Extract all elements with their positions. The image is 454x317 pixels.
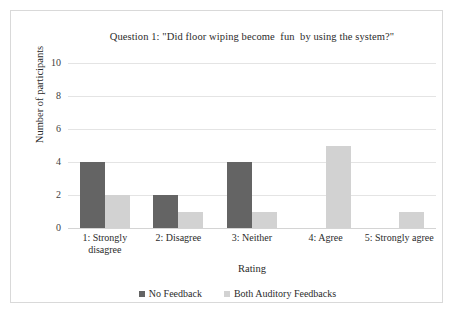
x-axis-tick-label-line: 4: Agree — [285, 232, 367, 244]
x-axis-line — [68, 228, 436, 229]
y-axis-tick-label: 6 — [25, 123, 61, 134]
chart-title: Question 1: "Did floor wiping become fun… — [57, 31, 447, 42]
legend-entry[interactable]: No Feedback — [139, 288, 202, 299]
legend-swatch-icon — [224, 291, 230, 297]
x-axis-tick-label-line: 5: Strongly agree — [358, 232, 440, 244]
legend-label: Both Auditory Feedbacks — [234, 288, 336, 299]
chart-figure: Question 1: "Did floor wiping become fun… — [0, 0, 454, 317]
legend-label: No Feedback — [149, 288, 202, 299]
x-axis-tick-label-line: 1: Strongly — [64, 232, 146, 244]
y-axis-tick-label: 2 — [25, 189, 61, 200]
x-axis-tick-label: 4: Agree — [285, 232, 367, 244]
chart-frame: Question 1: "Did floor wiping become fun… — [10, 10, 443, 303]
gridline — [68, 129, 436, 130]
gridline — [68, 162, 436, 163]
x-axis-tick-label-line: 3: Neither — [211, 232, 293, 244]
y-axis-tick-label: 10 — [25, 57, 61, 68]
bar — [252, 212, 277, 229]
bar — [153, 195, 178, 228]
chart-legend: No FeedbackBoth Auditory Feedbacks — [21, 288, 454, 299]
x-axis-title: Rating — [68, 263, 436, 274]
bar — [105, 195, 130, 228]
x-axis-tick-label-line: disagree — [64, 244, 146, 256]
x-axis-tick-label: 1: Stronglydisagree — [64, 232, 146, 255]
x-axis-tick-label: 2: Disagree — [138, 232, 220, 244]
y-axis-tick-label: 8 — [25, 90, 61, 101]
bar — [80, 162, 105, 228]
x-axis-tick-label: 3: Neither — [211, 232, 293, 244]
bar — [227, 162, 252, 228]
x-axis-tick-label-line: 2: Disagree — [138, 232, 220, 244]
legend-swatch-icon — [139, 291, 145, 297]
legend-entry[interactable]: Both Auditory Feedbacks — [224, 288, 336, 299]
bar — [178, 212, 203, 229]
y-axis-tick-label: 4 — [25, 156, 61, 167]
gridline — [68, 96, 436, 97]
y-axis-tick-label: 0 — [25, 222, 61, 233]
bar — [399, 212, 424, 229]
gridline — [68, 63, 436, 64]
bar — [326, 146, 351, 229]
plot-area — [68, 63, 436, 228]
x-axis-tick-label: 5: Strongly agree — [358, 232, 440, 244]
